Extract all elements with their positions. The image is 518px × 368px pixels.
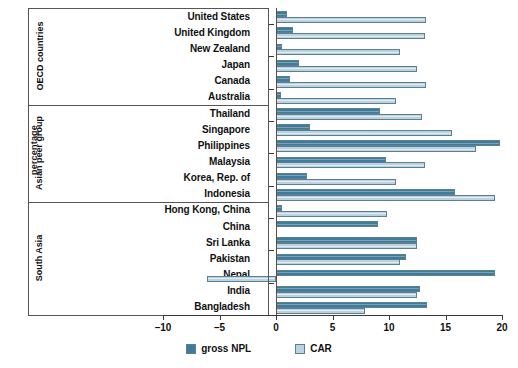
bar-car bbox=[276, 66, 417, 72]
bar-car bbox=[276, 49, 400, 55]
bar-group bbox=[163, 267, 502, 283]
bar-group bbox=[163, 186, 502, 202]
bar-car bbox=[276, 146, 476, 152]
bar-group bbox=[163, 170, 502, 186]
bar-group bbox=[163, 202, 502, 218]
x-tick-label: 20 bbox=[496, 322, 507, 333]
bar-group bbox=[163, 8, 502, 24]
bar-group bbox=[163, 283, 502, 299]
bar-group bbox=[163, 153, 502, 169]
bar-car bbox=[276, 211, 387, 217]
plot-area bbox=[163, 8, 502, 315]
bar-group bbox=[163, 299, 502, 315]
legend-label-gross-npl: gross NPL bbox=[201, 343, 251, 354]
bar-car bbox=[276, 308, 365, 314]
bar-group bbox=[163, 218, 502, 234]
x-tick-label: 0 bbox=[273, 322, 279, 333]
x-tick-label: 15 bbox=[440, 322, 451, 333]
bar-car bbox=[276, 82, 426, 88]
legend-label-car: CAR bbox=[310, 343, 332, 354]
bar-car bbox=[276, 130, 452, 136]
x-tick bbox=[163, 315, 164, 320]
legend-item-gross-npl: gross NPL bbox=[186, 343, 251, 354]
x-tick-label: –5 bbox=[214, 322, 225, 333]
bar-car bbox=[276, 259, 400, 265]
group-label-text: OECD countries bbox=[34, 22, 44, 91]
chart-legend: gross NPL CAR bbox=[0, 343, 518, 354]
bar-car bbox=[276, 195, 495, 201]
label-block-right-spine bbox=[268, 8, 269, 315]
group-label: Asian peer group bbox=[28, 105, 50, 202]
x-tick-label: 10 bbox=[383, 322, 394, 333]
bar-group bbox=[163, 105, 502, 121]
zero-line bbox=[276, 8, 277, 315]
x-tick bbox=[389, 315, 390, 320]
bar-npl bbox=[276, 270, 495, 276]
bar-car bbox=[276, 17, 426, 23]
bar-group bbox=[163, 40, 502, 56]
group-label-text: Asian peer group bbox=[34, 116, 44, 190]
bar-npl bbox=[276, 221, 378, 227]
group-label: South Asia bbox=[28, 202, 50, 315]
x-tick bbox=[276, 315, 277, 320]
bar-car bbox=[276, 114, 422, 120]
group-label-text: South Asia bbox=[34, 235, 44, 282]
bar-group bbox=[163, 121, 502, 137]
x-tick-label: 5 bbox=[330, 322, 336, 333]
bar-group bbox=[163, 73, 502, 89]
legend-swatch-gross-npl bbox=[186, 344, 196, 354]
bar-group bbox=[163, 56, 502, 72]
bar-car bbox=[276, 162, 425, 168]
bar-car bbox=[276, 243, 417, 249]
group-label: OECD countries bbox=[28, 8, 50, 105]
bar-group bbox=[163, 250, 502, 266]
bar-group bbox=[163, 24, 502, 40]
label-block-spine bbox=[28, 8, 29, 315]
bar-group bbox=[163, 89, 502, 105]
bar-car bbox=[276, 98, 396, 104]
bar-car bbox=[207, 276, 276, 282]
bar-car bbox=[276, 33, 425, 39]
bar-group bbox=[163, 234, 502, 250]
legend-swatch-car bbox=[295, 344, 305, 354]
x-tick bbox=[502, 315, 503, 320]
x-tick-label: –10 bbox=[155, 322, 172, 333]
legend-item-car: CAR bbox=[295, 343, 332, 354]
bar-car bbox=[276, 179, 396, 185]
x-tick bbox=[220, 315, 221, 320]
bar-chart: percentage OECD countriesAsian peer grou… bbox=[0, 0, 518, 368]
x-tick bbox=[333, 315, 334, 320]
bar-group bbox=[163, 137, 502, 153]
bar-car bbox=[276, 292, 417, 298]
x-tick bbox=[446, 315, 447, 320]
